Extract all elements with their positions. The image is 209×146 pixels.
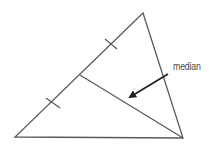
triangle-figure bbox=[0, 0, 209, 146]
median-line bbox=[80, 75, 183, 138]
median-diagram: median bbox=[0, 0, 209, 146]
triangle bbox=[15, 13, 183, 138]
arrow-icon bbox=[130, 74, 168, 97]
median-label: median bbox=[173, 61, 201, 72]
